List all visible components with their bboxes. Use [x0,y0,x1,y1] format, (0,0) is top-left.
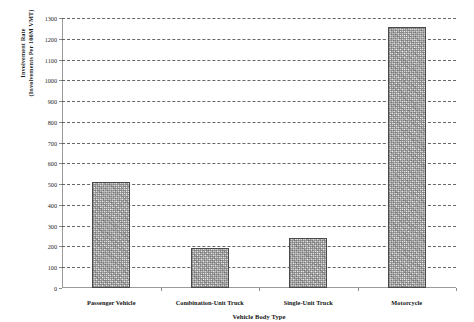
y-tick-mark [59,143,62,144]
x-tick-mark [456,288,457,291]
y-tick-mark [59,60,62,61]
y-tick-label: 200 [48,243,57,250]
y-tick-label: 0 [54,285,57,292]
y-tick-mark [59,184,62,185]
y-tick-label: 800 [48,118,57,125]
y-axis-title-line2: (Involvements Per 100M VMT) [27,10,36,97]
y-tick-mark [59,80,62,81]
y-tick-label: 600 [48,160,57,167]
y-tick-label: 500 [48,181,57,188]
bar [289,238,327,288]
y-tick-mark [59,205,62,206]
y-tick-mark [59,246,62,247]
x-tick-label: Passenger Vehicle [87,299,135,306]
x-axis-title: Vehicle Body Type [62,313,456,320]
y-tick-label: 700 [48,139,57,146]
y-tick-mark [59,267,62,268]
plot-area: 0100200300400500600700800900100011001200… [62,18,456,288]
y-tick-label: 300 [48,222,57,229]
y-tick-label: 400 [48,201,57,208]
y-tick-mark [59,101,62,102]
x-tick-label: Single-Unit Truck [284,299,333,306]
x-tick-mark [259,288,260,291]
x-tick-label: Combination-Unit Truck [176,299,244,306]
y-tick-mark [59,226,62,227]
y-axis-title: Involvement Rate (Involvements Per 100M … [14,0,40,118]
y-tick-label: 1200 [45,35,57,42]
bar-chart: Involvement Rate (Involvements Per 100M … [0,0,474,322]
y-tick-mark [59,122,62,123]
x-tick-label: Motorcycle [391,299,422,306]
bar [191,248,229,289]
bar [388,27,426,288]
bar [92,182,130,288]
y-tick-label: 100 [48,264,57,271]
y-tick-mark [59,18,62,19]
y-tick-mark [59,288,62,289]
gridline [62,18,456,19]
y-axis-line [62,18,63,288]
x-tick-mark [161,288,162,291]
y-tick-mark [59,163,62,164]
y-tick-label: 1100 [45,56,57,63]
y-tick-mark [59,39,62,40]
y-tick-label: 1300 [45,15,57,22]
x-tick-mark [358,288,359,291]
y-tick-label: 900 [48,98,57,105]
y-tick-label: 1000 [45,77,57,84]
y-axis-title-line1: Involvement Rate [19,28,28,77]
